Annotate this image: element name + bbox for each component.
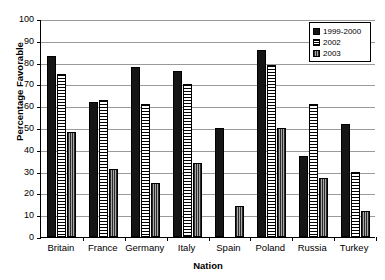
bar: [89, 102, 98, 237]
x-category-label: Italy: [166, 242, 208, 253]
bar-chart: Percentage Favorable 1999-2000 2002 2003…: [0, 0, 385, 280]
x-tick-mark: [83, 237, 84, 241]
bar: [151, 183, 160, 238]
x-category-label: Germany: [124, 242, 166, 253]
legend-swatch-icon: [313, 50, 320, 57]
y-tick-label: 100: [6, 14, 34, 24]
y-tick-mark: [37, 85, 41, 86]
y-tick-mark: [37, 173, 41, 174]
bar: [309, 104, 318, 237]
bar: [57, 74, 66, 238]
y-tick-label: 70: [6, 79, 34, 89]
legend: 1999-2000 2002 2003: [309, 22, 371, 62]
plot-area: 1999-2000 2002 2003: [40, 20, 375, 238]
legend-swatch-icon: [313, 39, 320, 46]
legend-label: 1999-2000: [323, 27, 361, 36]
bar-group: [215, 20, 244, 237]
x-tick-mark: [167, 237, 168, 241]
bar-group: [89, 20, 118, 237]
legend-label: 2003: [323, 49, 341, 58]
y-tick-mark: [37, 216, 41, 217]
x-tick-mark: [334, 237, 335, 241]
bar: [109, 169, 118, 237]
legend-label: 2002: [323, 38, 341, 47]
y-tick-mark: [37, 238, 41, 239]
x-tick-mark: [376, 237, 377, 241]
y-tick-label: 90: [6, 36, 34, 46]
legend-swatch-icon: [313, 28, 320, 35]
bar: [361, 211, 370, 237]
bar: [47, 56, 56, 237]
bar: [67, 132, 76, 237]
x-tick-mark: [125, 237, 126, 241]
bar: [257, 50, 266, 237]
y-tick-label: 30: [6, 167, 34, 177]
x-category-label: Russia: [291, 242, 333, 253]
y-tick-label: 0: [6, 232, 34, 242]
bar: [193, 163, 202, 237]
bar: [215, 128, 224, 237]
bar-group: [131, 20, 160, 237]
y-tick-mark: [37, 129, 41, 130]
x-category-label: Poland: [249, 242, 291, 253]
y-tick-mark: [37, 42, 41, 43]
y-tick-label: 60: [6, 101, 34, 111]
bar: [351, 172, 360, 237]
y-tick-label: 40: [6, 145, 34, 155]
y-tick-mark: [37, 194, 41, 195]
bar: [131, 67, 140, 237]
x-tick-mark: [209, 237, 210, 241]
bar: [299, 156, 308, 237]
y-tick-mark: [37, 107, 41, 108]
y-tick-label: 20: [6, 188, 34, 198]
bar-group: [47, 20, 76, 237]
x-category-label: Britain: [40, 242, 82, 253]
bar: [235, 206, 244, 237]
y-tick-label: 80: [6, 58, 34, 68]
y-tick-mark: [37, 20, 41, 21]
y-tick-label: 10: [6, 210, 34, 220]
legend-item: 2003: [313, 48, 367, 58]
x-tick-mark: [250, 237, 251, 241]
y-tick-mark: [37, 151, 41, 152]
bar-group: [257, 20, 286, 237]
bar-group: [173, 20, 202, 237]
bar: [277, 128, 286, 237]
bar: [173, 71, 182, 237]
bar: [267, 65, 276, 237]
x-axis-title: Nation: [40, 260, 376, 271]
x-category-label: Spain: [208, 242, 250, 253]
bar: [183, 84, 192, 237]
x-category-label: France: [82, 242, 124, 253]
bar: [319, 178, 328, 237]
legend-item: 2002: [313, 37, 367, 47]
x-tick-mark: [292, 237, 293, 241]
legend-item: 1999-2000: [313, 26, 367, 36]
y-tick-mark: [37, 64, 41, 65]
bar: [341, 124, 350, 237]
x-category-label: Turkey: [333, 242, 375, 253]
bar: [141, 104, 150, 237]
bar: [99, 100, 108, 237]
y-tick-label: 50: [6, 123, 34, 133]
